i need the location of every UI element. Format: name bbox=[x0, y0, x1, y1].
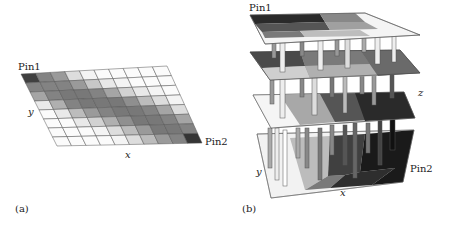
panel-a-pin1-label: Pin1 bbox=[18, 61, 41, 72]
panel-b-y-axis-label: y bbox=[255, 166, 262, 177]
panel-a-caption: (a) bbox=[15, 203, 29, 214]
panel-a-grid bbox=[21, 66, 202, 146]
figure-canvas: Pin1 Pin2 y x (a) bbox=[0, 0, 449, 226]
panel-a-y-axis-label: y bbox=[27, 106, 34, 117]
panel-b-pin1-label: Pin1 bbox=[249, 2, 272, 13]
panel-b-x-axis-label: x bbox=[340, 187, 346, 198]
panel-b-pin2-label: Pin2 bbox=[410, 163, 433, 174]
panel-b-z-axis-label: z bbox=[417, 87, 424, 98]
panel-b-caption: (b) bbox=[242, 203, 256, 214]
panel-a-x-axis-label: x bbox=[125, 149, 131, 160]
panel-b-stack bbox=[250, 13, 420, 198]
panel-a-pin2-label: Pin2 bbox=[205, 136, 228, 147]
